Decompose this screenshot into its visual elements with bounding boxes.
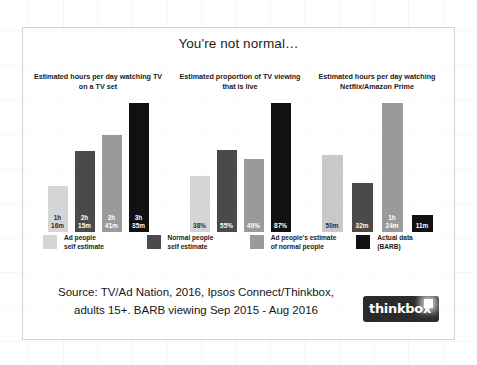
legend-item: Normal people self estimate <box>143 234 248 252</box>
page-title: You're not normal… <box>23 36 454 51</box>
legend-label: Ad people's estimate of normal people <box>271 234 337 252</box>
source-note: Source: TV/Ad Nation, 2016, Ipsos Connec… <box>35 284 357 320</box>
legend-item: Actual data (BARB) <box>354 234 449 252</box>
chart-panel-live-viewing: Estimated proportion of TV viewing that … <box>175 72 305 232</box>
thinkbox-logo: thinkbox <box>363 296 439 322</box>
bar-value-label: 38% <box>193 222 206 232</box>
legend-swatch <box>356 235 370 249</box>
legend-swatch <box>250 235 264 249</box>
legend-label: Actual data (BARB) <box>377 234 413 252</box>
bar: 32m <box>352 183 373 232</box>
bar: 1h 16m <box>48 186 68 232</box>
bar: 55% <box>217 150 237 232</box>
bar: 50m <box>322 155 343 232</box>
bar-value-label: 1h 24m <box>386 214 399 232</box>
bar-value-label: 32m <box>356 222 369 232</box>
panel-title: Estimated hours per day watching TV on a… <box>33 72 163 92</box>
legend-swatch <box>43 235 57 249</box>
bar: 3h 35m <box>129 103 149 232</box>
bar-plot: 1h 16m2h 15m2h 41m3h 35m <box>33 94 163 232</box>
bar-value-label: 49% <box>247 222 260 232</box>
bar-value-label: 50m <box>326 222 339 232</box>
panel-title: Estimated proportion of TV viewing that … <box>175 72 305 92</box>
bar-value-label: 3h 35m <box>132 214 145 232</box>
thinkbox-wordmark: thinkbox <box>369 301 431 316</box>
bar: 87% <box>271 103 291 232</box>
chart-legend: Ad people self estimate Normal people se… <box>31 234 449 268</box>
bar: 11m <box>412 215 433 232</box>
panel-title: Estimated hours per day watching Netflix… <box>305 72 449 92</box>
legend-label: Normal people self estimate <box>168 234 214 252</box>
bar-value-label: 1h 16m <box>51 214 64 232</box>
slide-frame: You're not normal… Estimated hours per d… <box>22 27 455 340</box>
legend-swatch <box>147 235 161 249</box>
bar-value-label: 11m <box>416 222 428 232</box>
bar-value-label: 55% <box>220 222 233 232</box>
legend-item: Ad people's estimate of normal people <box>248 234 355 252</box>
bar: 2h 15m <box>75 151 95 232</box>
bar: 2h 41m <box>102 135 122 232</box>
chart-panel-svod: Estimated hours per day watching Netflix… <box>305 72 449 232</box>
legend-label: Ad people self estimate <box>64 234 104 252</box>
bar-plot: 50m32m1h 24m11m <box>305 94 449 232</box>
chart-panel-tv-set: Estimated hours per day watching TV on a… <box>33 72 163 232</box>
bar-value-label: 2h 41m <box>105 214 118 232</box>
legend-item: Ad people self estimate <box>31 234 143 252</box>
bar: 1h 24m <box>382 103 403 232</box>
bar: 49% <box>244 159 264 232</box>
bar-value-label: 2h 15m <box>78 214 91 232</box>
bar-plot: 38%55%49%87% <box>175 94 305 232</box>
bar-value-label: 87% <box>274 222 287 232</box>
bar: 38% <box>190 176 210 232</box>
